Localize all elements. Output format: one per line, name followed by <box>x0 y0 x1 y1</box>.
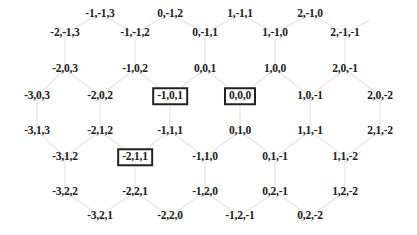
node-label: -1,-1,3 <box>85 8 114 20</box>
node-label: 2,1,-2 <box>367 125 393 137</box>
node-label: -3,1,3 <box>24 125 50 137</box>
node-label: 0,0,1 <box>194 63 216 75</box>
node-label: 1,1,-1 <box>297 125 323 137</box>
highlighted-node-label: -2,1,1 <box>117 148 153 166</box>
node-label: -2,2,0 <box>157 210 183 222</box>
highlighted-node-label: -1,0,1 <box>152 87 188 105</box>
node-label: -3,2,1 <box>87 210 113 222</box>
node-label: 2,-1,-1 <box>330 27 359 39</box>
node-label: -1,1,1 <box>157 125 183 137</box>
node-label: -2,2,1 <box>122 186 148 198</box>
node-label: -3,1,2 <box>52 151 78 163</box>
node-label: -2,0,3 <box>52 63 78 75</box>
node-label: 1,1,-2 <box>332 151 358 163</box>
node-label: 0,-1,1 <box>192 27 218 39</box>
node-label: -3,0,3 <box>24 90 50 102</box>
node-label: 1,0,0 <box>264 63 286 75</box>
node-label: 2,0,-1 <box>332 63 358 75</box>
node-label: 0,1,0 <box>229 125 251 137</box>
highlighted-node-label: 0,0,0 <box>224 87 256 105</box>
node-label: 2,-1,0 <box>297 8 323 20</box>
node-label: 2,0,-2 <box>367 90 393 102</box>
node-label: 1,2,-2 <box>332 186 358 198</box>
node-label: -2,-1,3 <box>50 27 79 39</box>
node-label: -3,2,2 <box>52 186 78 198</box>
node-label: 0,-1,2 <box>157 8 183 20</box>
node-label: -1,1,0 <box>192 151 218 163</box>
node-label: -1,2,-1 <box>225 210 254 222</box>
node-label: 1,-1,0 <box>262 27 288 39</box>
node-label: -1,2,0 <box>192 186 218 198</box>
node-label: 0,2,-1 <box>262 186 288 198</box>
node-label: 1,-1,1 <box>227 8 253 20</box>
node-label: -2,0,2 <box>87 90 113 102</box>
node-label: -1,0,2 <box>122 63 148 75</box>
node-label: -2,1,2 <box>87 125 113 137</box>
node-label: 0,1,-1 <box>262 151 288 163</box>
node-label: 1,0,-1 <box>297 90 323 102</box>
node-label: -1,-1,2 <box>120 27 149 39</box>
node-label: 0,2,-2 <box>297 210 323 222</box>
hex-coordinate-diagram: -1,-1,30,-1,21,-1,12,-1,0-2,-1,3-1,-1,20… <box>0 0 417 235</box>
